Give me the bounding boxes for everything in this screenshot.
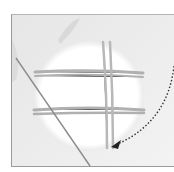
finger-shadow: [58, 18, 80, 44]
ring: [34, 41, 144, 151]
weaving-illustration: [0, 0, 174, 172]
